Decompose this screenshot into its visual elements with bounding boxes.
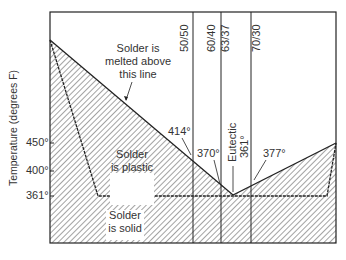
- alloy-label-60-40: 60/40: [205, 24, 217, 52]
- y-axis-label: Temperature (degrees F): [7, 70, 19, 186]
- annotation-eutectic: Eutectic: [226, 122, 238, 162]
- annotation-eutectic-temp: 361°: [238, 135, 250, 158]
- annotation-414: 414°: [168, 125, 191, 137]
- y-tick-400: 400°: [26, 164, 49, 176]
- annotation-377: 377°: [263, 147, 286, 159]
- alloy-label-63-37: 63/37: [219, 24, 231, 52]
- alloy-label-70-30: 70/30: [250, 24, 262, 52]
- solder-phase-diagram: 50/50 60/40 63/37 70/30 Temperature (deg…: [0, 0, 346, 260]
- melted-label-line2: melted above: [105, 55, 171, 67]
- y-tick-450: 450°: [26, 136, 49, 148]
- alloy-label-50-50: 50/50: [178, 24, 190, 52]
- melted-label-line1: Solder is: [117, 42, 160, 54]
- y-tick-361: 361°: [26, 189, 49, 201]
- annotation-370: 370°: [197, 147, 220, 159]
- melted-label-line3: this line: [119, 68, 156, 80]
- solid-label-line2: is solid: [108, 222, 142, 234]
- solid-label-line1: Solder: [109, 209, 141, 221]
- plastic-label-line2: is plastic: [111, 161, 154, 173]
- plastic-label-line1: Solder: [116, 148, 148, 160]
